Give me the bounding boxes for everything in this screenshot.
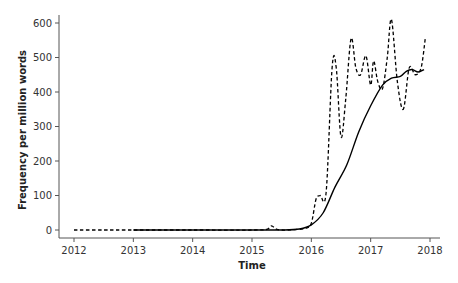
- x-tick-label: 2017: [358, 245, 383, 256]
- line-chart: 0100200300400500600201220132014201520162…: [0, 0, 458, 283]
- y-tick-label: 300: [33, 121, 52, 132]
- x-tick-label: 2012: [61, 245, 86, 256]
- x-tick-label: 2016: [299, 245, 324, 256]
- solid-series-line: [133, 70, 424, 231]
- y-tick-label: 100: [33, 190, 52, 201]
- dashed-series-line: [74, 19, 425, 230]
- y-tick-label: 500: [33, 52, 52, 63]
- y-tick-label: 0: [46, 225, 52, 236]
- y-tick-label: 400: [33, 87, 52, 98]
- y-tick-label: 600: [33, 18, 52, 29]
- x-tick-label: 2014: [180, 245, 205, 256]
- y-tick-label: 200: [33, 156, 52, 167]
- x-tick-label: 2013: [121, 245, 146, 256]
- x-axis-label: Time: [238, 260, 266, 271]
- axes: 0100200300400500600201220132014201520162…: [33, 15, 443, 256]
- series-group: [74, 19, 425, 230]
- x-tick-label: 2015: [239, 245, 264, 256]
- x-tick-label: 2018: [417, 245, 442, 256]
- y-axis-label: Frequency per million words: [17, 50, 28, 210]
